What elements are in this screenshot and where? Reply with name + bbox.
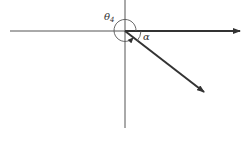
theta-label: θ4 bbox=[104, 11, 115, 24]
angle-diagram: θ4 α bbox=[0, 0, 246, 141]
vector-diagonal-arrow bbox=[125, 31, 204, 92]
alpha-label: α bbox=[143, 31, 150, 42]
